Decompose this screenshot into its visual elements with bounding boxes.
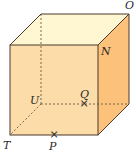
label-t: T (3, 139, 12, 152)
label-o: O (125, 0, 134, 12)
label-n: N (100, 45, 111, 58)
label-u: U (30, 94, 40, 107)
label-p: P (48, 140, 57, 153)
cube-diagram: × × O N U Q T P (0, 0, 136, 154)
label-q: Q (80, 88, 89, 101)
